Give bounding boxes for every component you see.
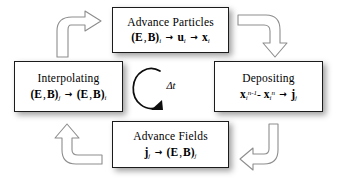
formula-term-target: (E,B) [77,88,105,100]
formula-sub-target: j [295,93,297,101]
curved-block-arrow-up-right-icon [51,11,103,57]
formula-sub-target: j [195,151,197,159]
node-interpolating[interactable]: Interpolating (E,B)j → (E,B)i [14,61,123,112]
timestep-cycle-indicator: Δt [138,62,204,118]
node-depositing-title: Depositing [242,72,294,85]
formula-term-source: (E,B) [30,88,58,100]
formula-arrow-icon-2: → [189,32,200,42]
node-advance-particles-formula: (E,B)i → ui → xi [131,31,210,44]
node-interpolating-formula: (E,B)j → (E,B)i [30,88,106,101]
formula-sub-source: j [58,93,60,101]
formula-sub-source: j [148,151,150,159]
node-advance-particles[interactable]: Advance Particles (E,B)i → ui → xi [112,7,229,53]
node-depositing[interactable]: Depositing xin-1- xin → jj [214,61,323,112]
pic-cycle-diagram: Advance Particles (E,B)i → ui → xi Depos… [0,0,340,183]
formula-term-source: (E,B) [131,31,159,43]
node-advance-fields-title: Advance Fields [133,130,208,143]
formula-arrow-icon: → [164,32,175,42]
formula-sub-mid: i [184,37,186,45]
node-interpolating-title: Interpolating [38,72,100,85]
curved-block-arrow-down-left-icon [240,124,292,170]
formula-sub-target: i [105,93,107,101]
formula-minus: - [257,88,261,100]
formula-term-target: (E,B) [167,146,195,158]
node-advance-fields-formula: jj → (E,B)j [145,146,197,159]
formula-arrow-icon: → [63,89,74,99]
curved-block-arrow-right-down-icon [238,11,290,57]
formula-arrow-icon: → [278,89,289,99]
node-depositing-formula: xin-1- xin → jj [240,88,297,101]
formula-sup-b: n [271,88,275,96]
curved-block-arrow-left-up-icon [50,124,102,170]
timestep-label: Δt [138,80,204,91]
node-advance-particles-title: Advance Particles [127,16,214,29]
formula-arrow-icon: → [153,147,164,157]
formula-sub-target: i [208,37,210,45]
formula-sup-a: n-1 [248,88,257,96]
node-advance-fields[interactable]: Advance Fields jj → (E,B)j [112,121,229,168]
formula-sub-source: i [159,37,161,45]
